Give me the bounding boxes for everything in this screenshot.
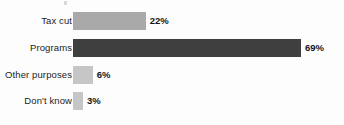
bar-row: Other purposes 6% bbox=[0, 66, 344, 84]
bar-row: Tax cut 22% bbox=[0, 12, 344, 30]
bar-track: 6% bbox=[73, 66, 111, 84]
category-label-programs: Programs bbox=[0, 39, 72, 57]
bar-dont-know bbox=[73, 92, 83, 110]
bar-track: 22% bbox=[73, 12, 169, 30]
category-label-dont-know: Don't know bbox=[0, 92, 72, 110]
bar-programs bbox=[73, 39, 301, 57]
category-label-tax-cut: Tax cut bbox=[0, 12, 72, 30]
bar-chart: Tax cut 22% Programs 69% Other purposes … bbox=[0, 0, 344, 125]
value-label-programs: 69% bbox=[305, 39, 324, 57]
bar-track: 3% bbox=[73, 92, 101, 110]
bar-rows: Tax cut 22% Programs 69% Other purposes … bbox=[0, 0, 344, 125]
category-label-other-purposes: Other purposes bbox=[0, 66, 72, 84]
bar-track: 69% bbox=[73, 39, 324, 57]
bar-row: Don't know 3% bbox=[0, 92, 344, 110]
bar-other-purposes bbox=[73, 66, 93, 84]
bar-row: Programs 69% bbox=[0, 39, 344, 57]
bar-tax-cut bbox=[73, 12, 146, 30]
value-label-dont-know: 3% bbox=[87, 92, 101, 110]
value-label-tax-cut: 22% bbox=[150, 12, 169, 30]
value-label-other-purposes: 6% bbox=[97, 66, 111, 84]
